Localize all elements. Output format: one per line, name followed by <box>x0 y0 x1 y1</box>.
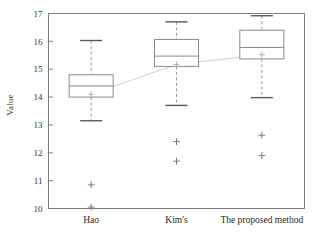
x-category-label: Kim's <box>165 215 188 225</box>
x-axis-category-labels: HaoKim'sThe proposed method <box>83 215 303 225</box>
y-tick-label: 11 <box>34 176 43 186</box>
box-group <box>240 16 284 159</box>
y-tick-label: 12 <box>34 148 43 158</box>
y-tick-label: 15 <box>34 64 44 74</box>
x-category-label: The proposed method <box>220 215 303 225</box>
boxplot-figure: Value 1011121314151617 HaoKim'sThe propo… <box>0 0 317 238</box>
y-tick-label: 16 <box>34 37 44 47</box>
plot-canvas: 1011121314151617 HaoKim'sThe proposed me… <box>0 0 317 238</box>
box-group <box>155 22 199 165</box>
y-tick-label: 17 <box>34 9 44 19</box>
y-tick-label: 10 <box>34 204 44 214</box>
x-category-label: Hao <box>83 215 99 225</box>
y-tick-label: 13 <box>34 120 44 130</box>
box-group <box>69 41 113 211</box>
y-axis-ticks: 1011121314151617 <box>34 9 54 214</box>
box-series <box>69 16 284 211</box>
y-tick-label: 14 <box>34 92 44 102</box>
